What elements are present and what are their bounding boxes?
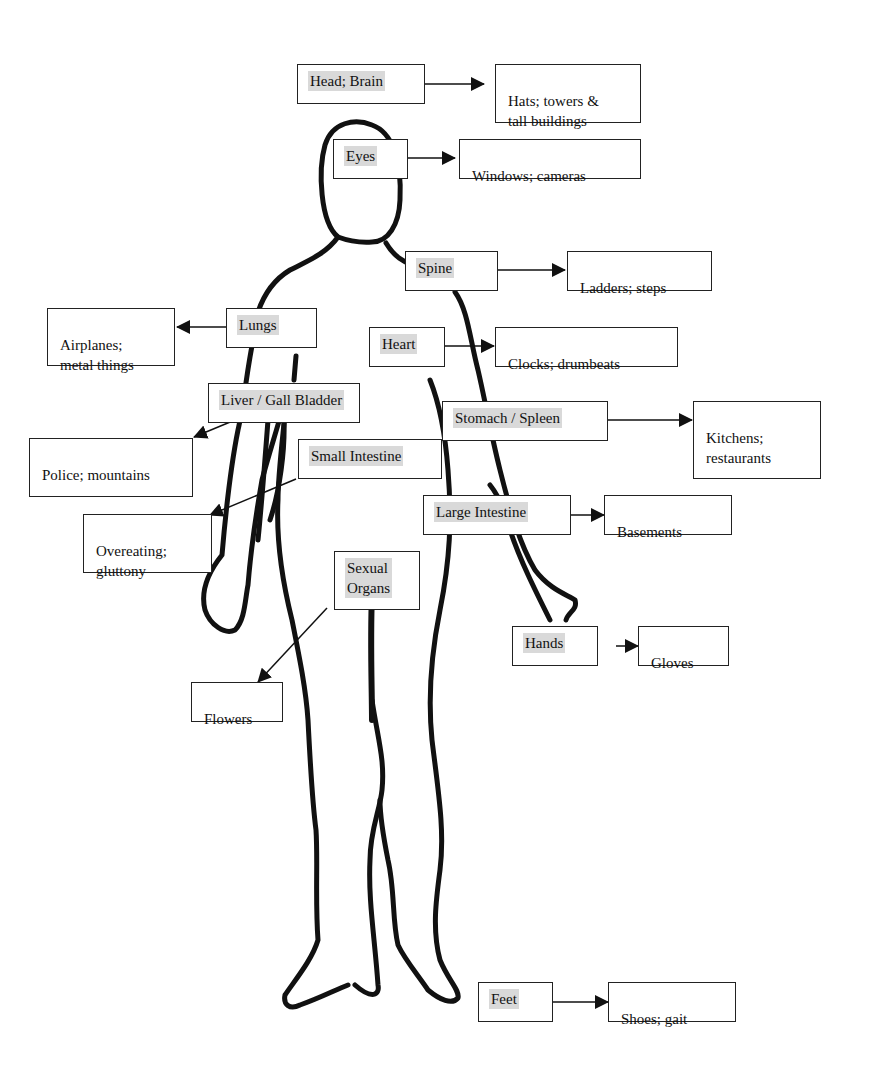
association-text: Windows; cameras: [472, 168, 586, 184]
organ-label: Head; Brain: [308, 71, 385, 91]
organ-box-small-intestine: Small Intestine: [298, 439, 442, 479]
organ-box-hands: Hands: [512, 626, 598, 666]
organ-box-liver: Liver / Gall Bladder: [208, 383, 360, 423]
association-box-eyes: Windows; cameras: [459, 139, 641, 179]
organ-label: Eyes: [344, 146, 377, 166]
association-text: Hats; towers & tall buildings: [508, 93, 599, 129]
organ-box-lungs: Lungs: [226, 308, 317, 348]
association-text: Gloves: [651, 655, 694, 671]
association-box-lungs: Airplanes; metal things: [47, 308, 175, 366]
organ-label: Small Intestine: [309, 446, 403, 466]
association-text: Kitchens; restaurants: [706, 430, 771, 466]
organ-label: Spine: [416, 258, 454, 278]
organ-box-sexual-organs: Sexual Organs: [334, 551, 420, 610]
organ-label: Sexual Organs: [345, 558, 392, 598]
association-box-liver: Police; mountains: [29, 438, 193, 497]
association-box-spine: Ladders; steps: [567, 251, 712, 291]
association-box-large-intestine: Basements: [604, 495, 732, 535]
organ-box-eyes: Eyes: [333, 139, 408, 179]
association-box-sexual-organs: Flowers: [191, 682, 283, 722]
organ-box-head: Head; Brain: [297, 64, 425, 104]
association-text: Flowers: [204, 711, 252, 727]
association-text: Clocks; drumbeats: [508, 356, 620, 372]
organ-label: Hands: [523, 633, 565, 653]
association-text: Police; mountains: [42, 467, 150, 483]
organ-label: Stomach / Spleen: [453, 408, 562, 428]
association-box-small-intestine: Overeating; gluttony: [83, 514, 212, 573]
association-box-heart: Clocks; drumbeats: [495, 327, 678, 367]
organ-box-heart: Heart: [369, 327, 445, 367]
organ-label: Feet: [489, 989, 519, 1009]
organ-box-feet: Feet: [478, 982, 553, 1022]
association-box-stomach: Kitchens; restaurants: [693, 401, 821, 479]
association-box-feet: Shoes; gait: [608, 982, 736, 1022]
association-text: Ladders; steps: [580, 280, 666, 296]
organ-label: Liver / Gall Bladder: [219, 390, 344, 410]
organ-box-spine: Spine: [405, 251, 498, 291]
organ-label: Heart: [380, 334, 417, 354]
organ-box-stomach: Stomach / Spleen: [442, 401, 608, 441]
organ-box-large-intestine: Large Intestine: [423, 495, 571, 535]
association-text: Basements: [617, 524, 682, 540]
association-text: Shoes; gait: [621, 1011, 687, 1027]
association-box-head: Hats; towers & tall buildings: [495, 64, 641, 123]
organ-label: Large Intestine: [434, 502, 528, 522]
association-text: Airplanes; metal things: [60, 337, 134, 373]
organ-label: Lungs: [237, 315, 279, 335]
association-box-hands: Gloves: [638, 626, 729, 666]
